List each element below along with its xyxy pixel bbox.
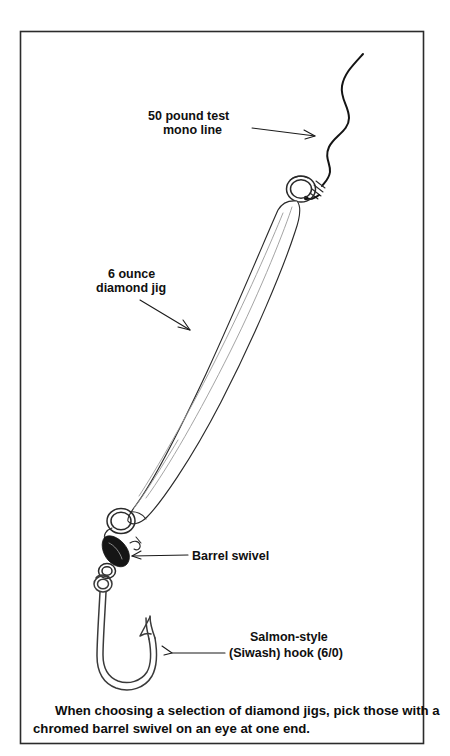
label-hook-text-1: Salmon-style: [250, 630, 328, 644]
caption-line-2: chromed barrel swivel on an eye at one e…: [33, 721, 310, 736]
label-diamond-jig-text-1: 6 ounce: [108, 267, 155, 281]
label-hook-text-2: (Siwash) hook (6/0): [229, 646, 343, 660]
label-mono-line-text-2: mono line: [163, 123, 222, 137]
figure-root: 50 pound test mono line 6 ounce diamond …: [0, 0, 450, 756]
caption-line-1: When choosing a selection of diamond jig…: [55, 703, 440, 718]
label-mono-line-text-1: 50 pound test: [148, 109, 230, 123]
label-diamond-jig-text-2: diamond jig: [96, 281, 166, 295]
diagram-canvas: 50 pound test mono line 6 ounce diamond …: [0, 0, 450, 756]
label-barrel-swivel-text: Barrel swivel: [192, 549, 269, 563]
